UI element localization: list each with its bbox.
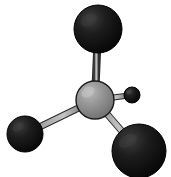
right-small-atom xyxy=(124,87,140,103)
lower-left-atom xyxy=(7,116,43,152)
central-atom xyxy=(76,81,114,119)
molecule-figure xyxy=(0,0,171,177)
molecule-canvas xyxy=(0,0,171,177)
lower-right-atom xyxy=(112,124,166,177)
upper-atom xyxy=(74,5,122,53)
